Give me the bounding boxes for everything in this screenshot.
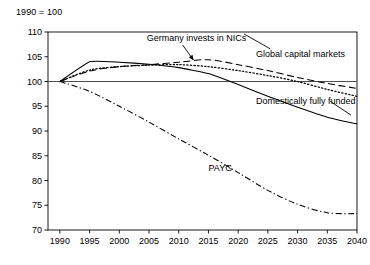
- series-lines: [60, 60, 357, 214]
- y-tick-label: 110: [28, 27, 42, 37]
- y-tick-label: 95: [32, 101, 42, 111]
- y-axis-tick-labels: 707580859095100105110: [27, 27, 42, 235]
- annotation-label: Domestically fully funded: [256, 96, 356, 106]
- series-line: [60, 61, 357, 124]
- x-tick-label: 2015: [198, 236, 218, 246]
- line-chart-plot: 707580859095100105110 199019952000200520…: [0, 0, 370, 265]
- y-tick-label: 85: [32, 151, 42, 161]
- x-tick-label: 2005: [139, 236, 159, 246]
- axes: [45, 32, 358, 234]
- y-tick-label: 105: [27, 52, 42, 62]
- annotation-label: Global capital markets: [256, 49, 346, 59]
- y-tick-label: 70: [32, 225, 42, 235]
- y-tick-label: 75: [32, 200, 42, 210]
- x-tick-label: 1995: [80, 236, 100, 246]
- annotation-label: PAYG: [208, 163, 232, 173]
- y-tick-label: 100: [27, 77, 42, 87]
- y-tick-label: 80: [32, 176, 42, 186]
- x-tick-label: 2040: [347, 236, 367, 246]
- x-tick-label: 2030: [288, 236, 308, 246]
- x-axis-tick-labels: 1990199520002005201020152020202520302035…: [50, 236, 367, 246]
- y-tick-label: 90: [32, 126, 42, 136]
- x-tick-label: 2035: [317, 236, 337, 246]
- x-tick-label: 2000: [109, 236, 129, 246]
- annotation-label: Germany invests in NICs: [147, 33, 247, 43]
- x-tick-label: 2020: [228, 236, 248, 246]
- x-tick-label: 1990: [50, 236, 70, 246]
- x-tick-label: 2025: [258, 236, 278, 246]
- series-annotations: Germany invests in NICsGlobal capital ma…: [147, 33, 356, 173]
- chart-figure: 1990 = 100 707580859095100105110 1990199…: [0, 0, 370, 265]
- x-tick-label: 2010: [169, 236, 189, 246]
